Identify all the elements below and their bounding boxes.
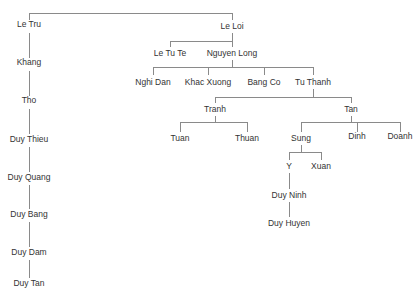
node-duy-tan: Duy Tan	[13, 278, 44, 288]
node-le-tu-te: Le Tu Te	[154, 48, 186, 58]
node-duy-thieu: Duy Thieu	[10, 134, 49, 144]
node-doanh: Doanh	[387, 131, 412, 141]
node-tho: Tho	[22, 95, 37, 105]
node-nghi-dan: Nghi Dan	[135, 77, 170, 87]
node-dinh: Dinh	[348, 131, 365, 141]
node-khac-xuong: Khac Xuong	[185, 77, 231, 87]
connector-lines	[0, 0, 420, 302]
node-sung: Sung	[291, 133, 311, 143]
family-tree-diagram: Le Tru Khang Tho Duy Thieu Duy Quang Duy…	[0, 0, 420, 302]
node-xuan: Xuan	[311, 161, 331, 171]
node-nguyen-long: Nguyen Long	[207, 48, 258, 58]
node-duy-bang: Duy Bang	[10, 209, 47, 219]
node-duy-dam: Duy Dam	[11, 247, 46, 257]
node-y: Y	[286, 161, 292, 171]
node-le-tru: Le Tru	[17, 19, 41, 29]
node-tan: Tan	[344, 104, 358, 114]
node-duy-quang: Duy Quang	[8, 172, 51, 182]
node-khang: Khang	[17, 57, 42, 67]
node-le-loi: Le Loi	[220, 21, 243, 31]
node-tu-thanh: Tu Thanh	[295, 77, 331, 87]
node-thuan: Thuan	[235, 133, 259, 143]
node-tuan: Tuan	[170, 133, 189, 143]
node-duy-ninh: Duy Ninh	[272, 190, 307, 200]
node-bang-co: Bang Co	[247, 77, 280, 87]
node-duy-huyen: Duy Huyen	[268, 218, 310, 228]
node-tranh: Tranh	[204, 104, 226, 114]
